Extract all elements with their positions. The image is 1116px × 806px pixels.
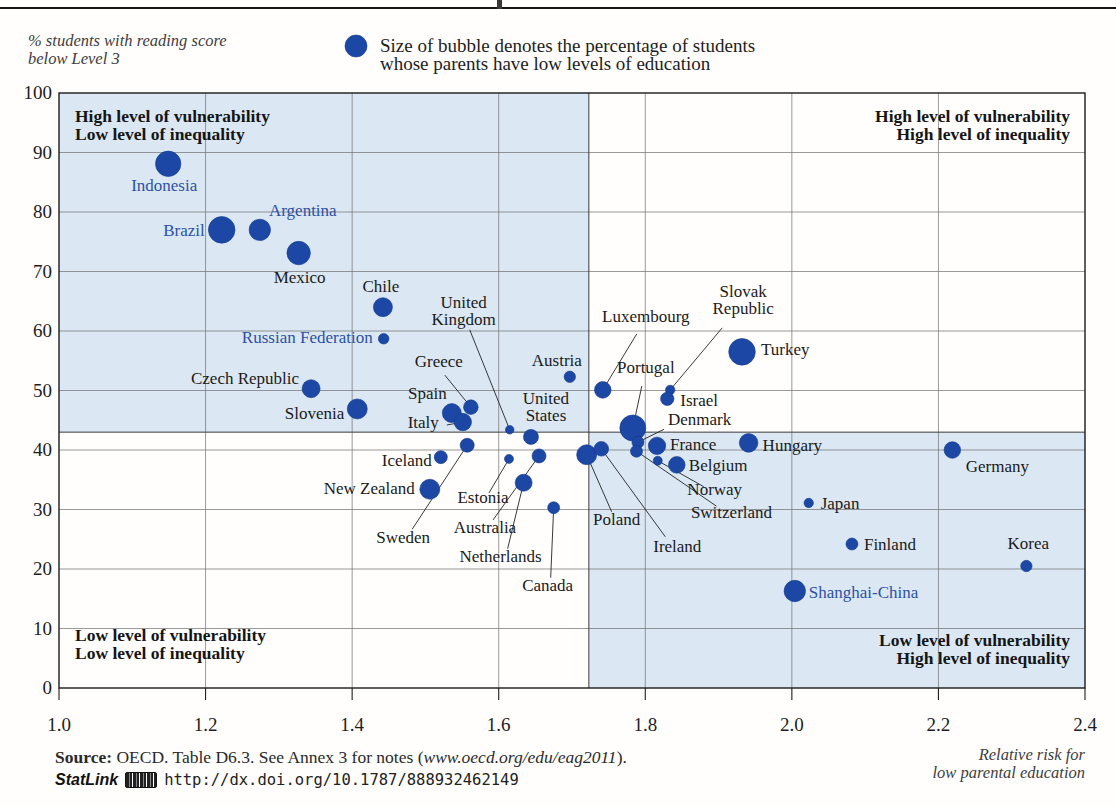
bubble-norway xyxy=(653,456,662,465)
leader-slovak-republic xyxy=(670,328,722,390)
label-france: France xyxy=(670,435,716,454)
bubble-sweden xyxy=(460,438,474,452)
bubble-iceland xyxy=(434,451,447,464)
bubble-finland xyxy=(846,538,858,550)
label-shanghai-china: Shanghai-China xyxy=(809,583,919,602)
label-ireland: Ireland xyxy=(653,537,702,556)
x-tick-1.2: 1.2 xyxy=(194,714,218,735)
label-norway: Norway xyxy=(687,480,742,499)
label-estonia: Estonia xyxy=(457,488,508,507)
bubble-israel xyxy=(661,392,674,405)
x-tick-1.6: 1.6 xyxy=(487,714,511,735)
bubble-germany xyxy=(944,442,961,459)
label-united-states: UnitedStates xyxy=(523,389,570,426)
bubble-austria xyxy=(564,371,575,382)
bubble-luxembourg xyxy=(594,382,611,399)
bubble-greece xyxy=(464,400,479,415)
y-tick-80: 80 xyxy=(33,201,52,222)
bubble-belgium xyxy=(668,457,685,474)
label-czech-republic: Czech Republic xyxy=(191,369,300,388)
statlink-icon xyxy=(125,772,157,788)
label-korea: Korea xyxy=(1008,534,1050,553)
label-indonesia: Indonesia xyxy=(131,176,198,195)
bubble-indonesia xyxy=(155,151,180,176)
y-tick-60: 60 xyxy=(33,320,52,341)
label-canada: Canada xyxy=(522,576,573,595)
label-germany: Germany xyxy=(966,457,1030,476)
bubble-turkey xyxy=(729,339,756,366)
bubble-united-kingdom xyxy=(505,425,514,434)
label-australia: Australia xyxy=(454,518,517,537)
label-mexico: Mexico xyxy=(274,268,326,287)
label-luxembourg: Luxembourg xyxy=(602,307,690,326)
bubble-argentina xyxy=(249,219,270,240)
quadrant-label-bottom-left: Low level of vulnerabilityLow level of i… xyxy=(75,625,266,663)
y-axis-title: % students with reading scorebelow Level… xyxy=(28,31,227,68)
bubble-ireland xyxy=(594,442,609,457)
x-axis-title: Relative risk forlow parental education xyxy=(933,745,1086,782)
quadrant-label-top-left: High level of vulnerabilityLow level of … xyxy=(75,106,270,144)
bubble-estonia xyxy=(504,454,513,463)
legend-bubble-icon xyxy=(345,35,367,57)
bubble-portugal xyxy=(620,415,646,441)
x-tick-2.0: 2.0 xyxy=(780,714,804,735)
y-tick-100: 100 xyxy=(24,82,53,103)
quadrant-label-bottom-right: Low level of vulnerabilityHigh level of … xyxy=(879,630,1070,668)
source-link: www.oecd.org/edu/eag2011 xyxy=(424,747,617,767)
bubble-australia xyxy=(532,449,546,463)
bubble-russian-federation xyxy=(378,333,389,344)
legend-text: Size of bubble denotes the percentage of… xyxy=(380,35,755,74)
y-tick-40: 40 xyxy=(33,439,52,460)
bubble-brazil xyxy=(208,217,235,244)
bubble-new-zealand xyxy=(420,479,440,499)
label-chile: Chile xyxy=(363,277,400,296)
bubble-canada xyxy=(548,502,560,514)
shade-top-left xyxy=(59,93,589,432)
label-japan: Japan xyxy=(821,494,860,513)
source-block: Source: OECD. Table D6.3. See Annex 3 fo… xyxy=(55,746,755,789)
quadrant-label-top-right: High level of vulnerabilityHigh level of… xyxy=(875,106,1070,144)
label-greece: Greece xyxy=(415,352,463,371)
label-israel: Israel xyxy=(680,391,718,410)
bubble-france xyxy=(648,437,665,454)
bubble-chart: High level of vulnerabilityLow level of … xyxy=(0,0,1116,806)
bubble-czech-republic xyxy=(302,380,320,398)
label-brazil: Brazil xyxy=(163,221,205,240)
statlink-line: StatLink http://dx.doi.org/10.1787/88893… xyxy=(55,771,755,789)
bubble-mexico xyxy=(287,241,310,264)
label-turkey: Turkey xyxy=(761,340,810,359)
statlink-url: http://dx.doi.org/10.1787/888932462149 xyxy=(164,771,519,789)
y-tick-30: 30 xyxy=(33,499,52,520)
bubble-united-states xyxy=(523,429,538,444)
source-line: Source: OECD. Table D6.3. See Annex 3 fo… xyxy=(55,746,755,769)
label-portugal: Portugal xyxy=(617,358,675,377)
label-iceland: Iceland xyxy=(382,451,433,470)
bubble-slovenia xyxy=(347,399,367,419)
bubble-switzerland xyxy=(630,445,642,457)
label-belgium: Belgium xyxy=(689,456,748,475)
bubble-chile xyxy=(373,298,392,317)
label-sweden: Sweden xyxy=(376,528,430,547)
label-poland: Poland xyxy=(593,510,641,529)
bubble-italy xyxy=(454,413,471,430)
book-page: High level of vulnerabilityLow level of … xyxy=(0,0,1116,806)
y-tick-10: 10 xyxy=(33,618,52,639)
label-denmark: Denmark xyxy=(668,410,732,429)
label-spain: Spain xyxy=(408,384,447,403)
source-label: Source: xyxy=(55,747,112,767)
label-austria: Austria xyxy=(532,351,583,370)
bubble-netherlands xyxy=(515,474,532,491)
label-switzerland: Switzerland xyxy=(691,503,773,522)
label-italy: Italy xyxy=(408,413,440,432)
bubble-japan xyxy=(804,498,813,507)
label-netherlands: Netherlands xyxy=(460,547,542,566)
label-argentina: Argentina xyxy=(269,201,337,220)
y-tick-50: 50 xyxy=(33,380,52,401)
y-tick-90: 90 xyxy=(33,142,52,163)
x-tick-1.4: 1.4 xyxy=(340,714,364,735)
bubble-korea xyxy=(1021,560,1032,571)
label-russian-federation: Russian Federation xyxy=(242,328,373,347)
y-tick-0: 0 xyxy=(43,677,53,698)
label-slovenia: Slovenia xyxy=(285,404,345,423)
leader-netherlands xyxy=(508,483,524,549)
